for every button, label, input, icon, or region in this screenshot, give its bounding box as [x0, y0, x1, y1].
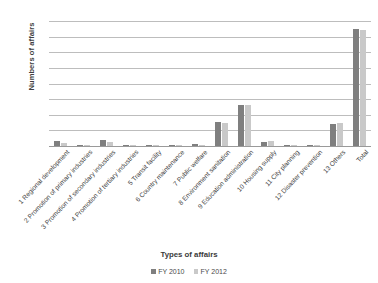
- bar: [130, 145, 136, 146]
- legend-swatch: [151, 269, 156, 274]
- bar: [123, 145, 129, 146]
- bar-group: [325, 21, 348, 146]
- bar-groups: [49, 21, 371, 146]
- y-axis-title: Numbers of affairs: [27, 2, 36, 112]
- bar: [192, 144, 198, 146]
- x-axis-title: Types of affairs: [0, 250, 378, 259]
- bar: [284, 145, 290, 146]
- bar: [222, 123, 228, 146]
- bar: [215, 122, 221, 146]
- bar: [330, 124, 336, 146]
- bar: [100, 140, 106, 146]
- bar: [84, 145, 90, 146]
- bar: [199, 145, 205, 146]
- bar-group: [164, 21, 187, 146]
- bar: [61, 143, 67, 146]
- bar-group: [233, 21, 256, 146]
- bar: [153, 145, 159, 146]
- x-axis-tick-label: Total: [353, 147, 368, 162]
- bar-group: [118, 21, 141, 146]
- legend-item[interactable]: FY 2010: [151, 268, 184, 275]
- bar-group: [187, 21, 210, 146]
- bar-group: [72, 21, 95, 146]
- bar: [337, 123, 343, 146]
- chart-legend: FY 2010FY 2012: [0, 268, 378, 275]
- bar: [268, 141, 274, 146]
- bar-group: [348, 21, 371, 146]
- bar-group: [279, 21, 302, 146]
- plot-area: 05001000150020002500300035004000: [49, 21, 371, 146]
- legend-label: FY 2010: [158, 268, 184, 275]
- x-axis-tick-label: 13 Others: [320, 147, 345, 173]
- legend-swatch: [194, 269, 199, 274]
- bar: [107, 142, 113, 146]
- bar: [169, 145, 175, 146]
- bar: [314, 145, 320, 146]
- bar: [360, 30, 366, 146]
- bar-group: [95, 21, 118, 146]
- bar-chart: Numbers of affairs 050010001500200025003…: [0, 0, 378, 283]
- bar: [245, 105, 251, 146]
- bar: [307, 145, 313, 146]
- legend-item[interactable]: FY 2012: [194, 268, 227, 275]
- bar: [77, 145, 83, 146]
- bar: [238, 105, 244, 146]
- bar-group: [210, 21, 233, 146]
- bar: [146, 145, 152, 146]
- bar-group: [141, 21, 164, 146]
- bar: [353, 29, 359, 146]
- bar: [54, 141, 60, 146]
- bar: [291, 145, 297, 146]
- bar-group: [256, 21, 279, 146]
- bar-group: [302, 21, 325, 146]
- axis-baseline: [49, 146, 371, 147]
- legend-label: FY 2012: [201, 268, 227, 275]
- bar: [261, 142, 267, 146]
- bar: [176, 145, 182, 146]
- bar-group: [49, 21, 72, 146]
